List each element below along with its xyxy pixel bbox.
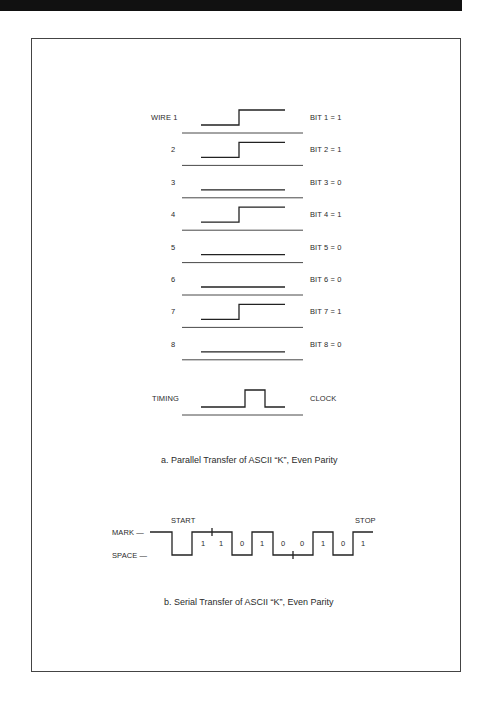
serial-bit-6: 0 bbox=[300, 539, 304, 548]
bit-label-7: BIT 7 = 1 bbox=[310, 307, 341, 316]
timing-clock-waveform bbox=[201, 390, 285, 407]
wire-7-waveform bbox=[201, 304, 285, 319]
bit-label-2: BIT 2 = 1 bbox=[310, 145, 341, 154]
wire-label-3: 3 bbox=[171, 178, 175, 187]
wire-label-2: 2 bbox=[171, 145, 175, 154]
stop-label: STOP bbox=[355, 516, 376, 525]
serial-bit-2: 1 bbox=[219, 539, 223, 548]
wire-4-waveform bbox=[201, 207, 285, 222]
serial-bit-4: 1 bbox=[260, 539, 264, 548]
bit-label-3: BIT 3 = 0 bbox=[310, 178, 341, 187]
wire-label-7: 7 bbox=[171, 307, 175, 316]
serial-bit-1: 1 bbox=[201, 539, 205, 548]
serial-bit-5: 0 bbox=[281, 539, 285, 548]
start-label: START bbox=[171, 516, 195, 525]
wire-label-6: 6 bbox=[171, 275, 175, 284]
wire-2-waveform bbox=[201, 142, 285, 157]
timing-label: TIMING bbox=[152, 394, 179, 403]
row-separators bbox=[182, 133, 303, 360]
serial-bit-8: 0 bbox=[341, 539, 345, 548]
serial-bit-7: 1 bbox=[321, 539, 325, 548]
serial-bit-stop: 1 bbox=[361, 539, 365, 548]
bit-label-6: BIT 6 = 0 bbox=[310, 275, 341, 284]
wire-label-8: 8 bbox=[171, 340, 175, 349]
wire-1-waveform bbox=[201, 110, 285, 125]
caption-parallel: a. Parallel Transfer of ASCII “K”, Even … bbox=[161, 455, 338, 465]
wire-label-5: 5 bbox=[171, 243, 175, 252]
bit-label-1: BIT 1 = 1 bbox=[310, 113, 341, 122]
wire-label-1: WIRE 1 bbox=[151, 113, 177, 122]
bit-label-4: BIT 4 = 1 bbox=[310, 210, 341, 219]
space-label: SPACE — bbox=[112, 551, 147, 560]
bit-label-8: BIT 8 = 0 bbox=[310, 340, 341, 349]
mark-label: MARK — bbox=[112, 528, 144, 537]
serial-bit-3: 0 bbox=[240, 539, 244, 548]
clock-label: CLOCK bbox=[310, 394, 336, 403]
parallel-waveforms bbox=[201, 110, 285, 352]
caption-serial: b. Serial Transfer of ASCII “K”, Even Pa… bbox=[164, 597, 334, 607]
bit-label-5: BIT 5 = 0 bbox=[310, 243, 341, 252]
wire-label-4: 4 bbox=[171, 210, 175, 219]
